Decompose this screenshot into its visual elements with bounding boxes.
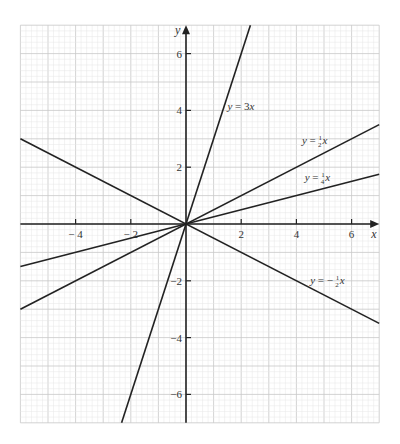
x-tick-label: 4 xyxy=(294,228,300,240)
x-tick-label: − 4 xyxy=(68,228,83,240)
y-tick-label: 2 xyxy=(177,161,183,173)
axes: xy− 4− 2246−6−4−2246 xyxy=(20,23,379,423)
y-axis-arrow-icon xyxy=(182,25,190,34)
x-tick-label: 2 xyxy=(238,228,244,240)
series-label: y = 12x xyxy=(301,134,328,149)
x-axis-label: x xyxy=(370,227,377,241)
y-axis-label: y xyxy=(174,23,181,37)
y-tick-label: −2 xyxy=(170,275,182,287)
x-tick-label: 6 xyxy=(349,228,355,240)
series-label: y = 3x xyxy=(226,100,254,112)
y-tick-label: −6 xyxy=(170,388,182,400)
y-tick-label: −4 xyxy=(170,332,182,344)
chart: xy− 4− 2246−6−4−2246 y = 3xy = 12xy = 14… xyxy=(0,0,400,444)
y-tick-label: 6 xyxy=(177,48,183,60)
y-tick-label: 4 xyxy=(177,104,183,116)
